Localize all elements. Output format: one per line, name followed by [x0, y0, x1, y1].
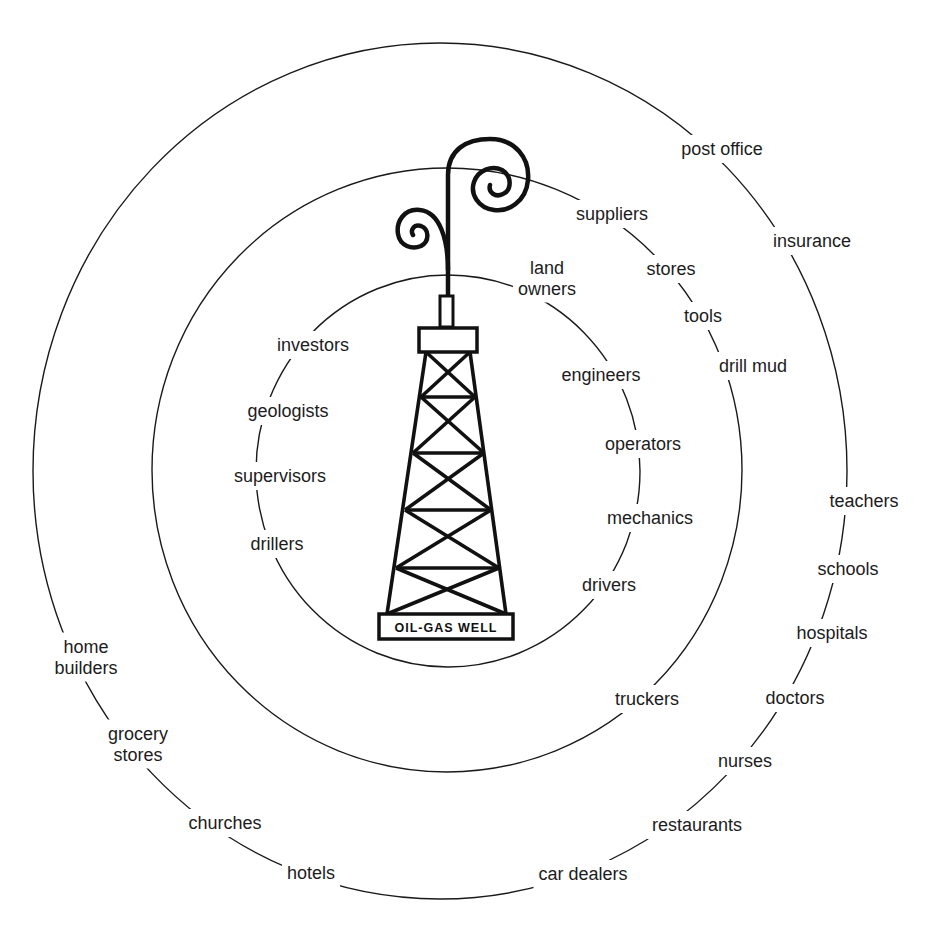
- label-mechanics: mechanics: [607, 508, 693, 528]
- label-insurance: insurance: [773, 231, 851, 251]
- label-home-builders: homebuilders: [54, 637, 117, 678]
- label-post-office: post office: [681, 139, 763, 159]
- label-churches: churches: [188, 813, 261, 833]
- label-doctors: doctors: [765, 688, 824, 708]
- label-grocery-stores: grocerystores: [108, 724, 168, 765]
- label-car-dealers: car dealers: [538, 864, 627, 884]
- label-drillers: drillers: [250, 534, 303, 554]
- label-suppliers: suppliers: [576, 204, 648, 224]
- derrick-cap: [419, 328, 477, 352]
- label-investors: investors: [277, 335, 349, 355]
- label-schools: schools: [817, 559, 878, 579]
- label-engineers: engineers: [561, 365, 640, 385]
- label-restaurants: restaurants: [652, 815, 742, 835]
- label-drivers: drivers: [582, 575, 636, 595]
- well-label: OIL-GAS WELL: [395, 621, 498, 635]
- gas-plume-icon: [398, 139, 528, 295]
- label-hotels: hotels: [287, 863, 335, 883]
- label-supervisors: supervisors: [234, 466, 326, 486]
- label-drill-mud: drill mud: [719, 356, 787, 376]
- label-tools: tools: [684, 306, 722, 326]
- pipe: [440, 296, 453, 327]
- economic-impact-diagram: OIL-GAS WELL landownersengineersoperator…: [0, 0, 939, 928]
- label-teachers: teachers: [829, 491, 898, 511]
- label-stores: stores: [646, 259, 695, 279]
- oil-derrick-icon: OIL-GAS WELL: [379, 139, 528, 639]
- label-operators: operators: [605, 434, 681, 454]
- label-truckers: truckers: [615, 689, 679, 709]
- label-nurses: nurses: [718, 751, 772, 771]
- label-hospitals: hospitals: [796, 623, 867, 643]
- label-geologists: geologists: [247, 401, 328, 421]
